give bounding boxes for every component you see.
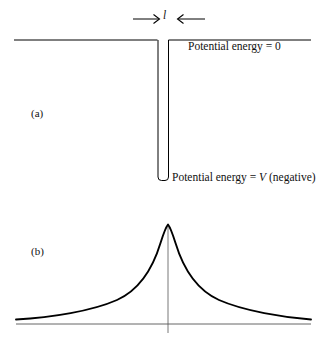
zero-energy-label: Potential energy = 0 [188,41,281,53]
well-depth-label-prefix: Potential energy = [172,171,259,183]
well-depth-label-suffix: (negative) [266,171,316,183]
panel-b-group [16,224,311,333]
potential-well-walls [158,40,169,181]
physics-figure: l Potential energy = 0 Potential energy … [0,0,329,346]
wavefunction-curve [16,225,311,320]
well-depth-label: Potential energy = V (negative) [172,172,316,184]
panel-b-label: (b) [31,246,44,257]
width-dimension-marker [133,15,205,24]
well-width-label: l [163,10,166,22]
panel-a-label: (a) [31,108,43,119]
